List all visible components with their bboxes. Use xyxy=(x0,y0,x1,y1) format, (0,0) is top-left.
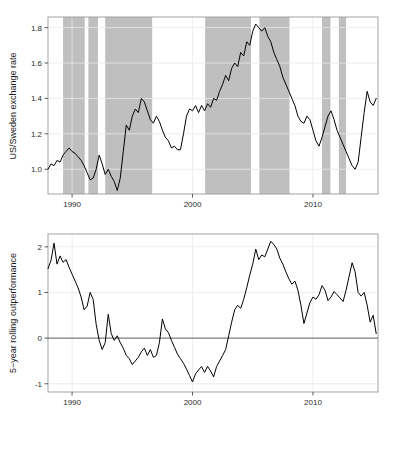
y-tick-label: 1 xyxy=(38,288,43,297)
panel-exchange-rate: 1.01.21.41.61.8 199020002010 US/Sweden e… xyxy=(8,17,378,209)
y-tick-label: -1 xyxy=(35,380,43,389)
shaded-band-6 xyxy=(339,17,346,194)
two-panel-time-series-figure: 1.01.21.41.61.8 199020002010 US/Sweden e… xyxy=(0,0,398,453)
y-tick-label: 1.6 xyxy=(31,59,43,68)
x-tick-label: 2000 xyxy=(184,200,202,209)
shaded-band-5 xyxy=(322,17,330,194)
y-tick-label: 1.2 xyxy=(31,130,43,139)
y-tick-label: 2 xyxy=(38,243,43,252)
x-tick-label: 1990 xyxy=(63,398,81,407)
bottom-y-axis-title: 5−year rolling outperformance xyxy=(8,253,18,373)
x-tick-label: 1990 xyxy=(63,200,81,209)
shaded-band-3 xyxy=(205,17,251,194)
x-tick-label: 2000 xyxy=(184,398,202,407)
shaded-band-0 xyxy=(63,17,85,194)
y-tick-label: 1.4 xyxy=(31,94,43,103)
x-tick-label: 2010 xyxy=(304,200,322,209)
x-tick-label: 2010 xyxy=(304,398,322,407)
top-y-axis-title: US/Sweden exchange rate xyxy=(8,52,18,159)
y-tick-label: 1.8 xyxy=(31,24,43,33)
bottom-plot-background xyxy=(48,234,378,392)
panel-rolling-outperformance: -1012 199020002010 5−year rolling outper… xyxy=(8,234,378,407)
y-tick-label: 0 xyxy=(38,334,43,343)
y-tick-label: 1.0 xyxy=(31,165,43,174)
shaded-band-4 xyxy=(259,17,289,194)
